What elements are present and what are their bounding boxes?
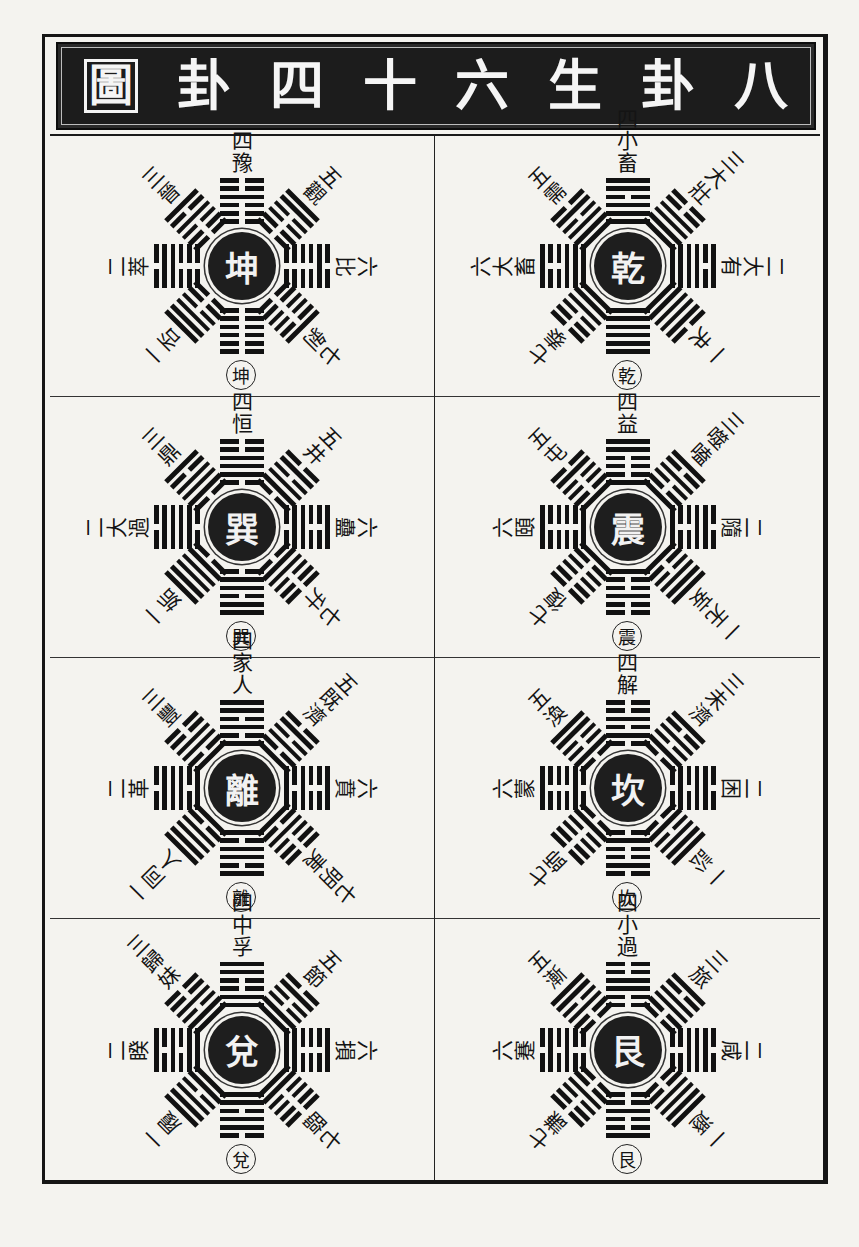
woodblock-page: 八卦生六十四卦圖 四小畜三大壯二大有一夬七泰六大畜五需乾乾四豫五觀六比七剝一否二… [42,34,828,1184]
hexagram-lines [670,1028,716,1072]
hexagram-label: 二大有 [720,252,786,280]
hexagram-number: 四 [617,652,638,674]
yang-line [171,244,176,288]
yang-line [606,838,650,843]
yang-line [220,472,264,477]
hexagram-name-char: 蒙 [514,778,536,799]
hexagram-name-char: 益 [617,413,638,435]
palace-origin-seal: 乾 [612,360,642,390]
hexagram-label: 六頤 [492,513,536,541]
yin-line [606,708,650,713]
yin-line [220,325,264,330]
yin-line [154,505,159,549]
hexagram-number: 六 [356,1039,378,1060]
hexagram-lines [606,178,650,224]
yang-line [606,325,650,330]
hexagram-label: 二大過 [84,513,150,541]
yang-line [326,1028,331,1072]
yang-line [220,700,264,705]
yang-line [326,766,331,810]
yang-line [220,855,264,860]
hexagram-label: 一遯 [683,1105,734,1156]
yin-line [220,333,264,338]
yang-line [606,350,650,355]
yin-line [220,978,264,983]
hexagram-name-char: 恒 [232,413,253,435]
yin-line [220,447,264,452]
hexagram-number: 六 [356,778,378,799]
yin-line [606,456,650,461]
yin-line [678,1028,683,1072]
yang-line [220,725,264,730]
hexagram-label: 六蹇 [492,1036,536,1064]
hexagram-number: 二 [764,256,786,277]
title-banner: 八卦生六十四卦圖 [56,42,816,130]
yin-line [220,178,264,183]
hexagram-number: 六 [356,517,378,538]
yin-line [606,602,650,607]
yang-line [162,244,167,288]
yin-line [220,1133,264,1138]
hexagram-label: 四豫 [228,130,256,174]
yin-line [606,1100,650,1105]
hexagram-lines [220,569,264,615]
hexagram-label: 四益 [614,391,642,435]
yin-line [220,733,264,738]
yin-line [711,1028,716,1072]
hexagram-lines [154,505,200,549]
yin-line [686,505,691,549]
hexagram-number: 六 [356,256,378,277]
hexagram-lines [606,830,650,876]
hexagram-name-char: 賁 [334,778,356,799]
hexagram-label: 三歸妹 [120,928,186,994]
yang-line [606,211,650,216]
hexagram-name-char: 咸 [720,1039,742,1060]
yin-line [220,863,264,868]
yang-line [678,244,683,288]
hexagram-name-char: 睽 [128,1039,150,1060]
hexagram-lines [606,1092,650,1138]
yang-line [220,1092,264,1097]
hexagram-label: 四家人 [228,630,256,696]
hexagram-label: 六蠱 [334,513,378,541]
hexagram-lines [540,505,586,549]
hexagram-name-char: 蹇 [514,1039,536,1060]
hexagram-name-char: 大 [492,256,514,277]
hexagram-lines [220,700,264,746]
yin-line [187,766,192,810]
yin-line [548,505,553,549]
yang-line [179,505,184,549]
hexagram-lines [220,962,264,1008]
yin-line [187,244,192,288]
hexagram-label: 三旅 [683,943,734,994]
hexagram-lines [540,1028,586,1072]
hexagram-label: 四解 [614,652,642,696]
hexagram-lines [154,766,200,810]
hexagram-name-char: 比 [334,256,356,277]
yang-line [171,505,176,549]
hexagram-lines [220,439,264,485]
yin-line [606,830,650,835]
title-char: 卦 [177,59,231,113]
hexagram-lines [284,766,330,810]
hexagram-number: 六 [492,517,514,538]
yin-line [548,766,553,810]
hexagram-name-char: 困 [720,778,742,799]
hexagram-lines [284,505,330,549]
yang-line [220,995,264,1000]
yang-line [606,447,650,452]
yin-line [317,766,322,810]
title-char: 四 [270,59,324,113]
hexagram-label: 五觀 [297,160,348,211]
hexagram-label: 一无妄 [683,582,749,648]
hexagram-number: 四 [232,130,253,152]
yang-line [573,244,578,288]
hexagram-name-char: 家 [232,652,253,674]
hexagram-number: 四 [232,892,253,914]
yin-line [220,203,264,208]
palace-trigram-disc: 艮 [594,1016,662,1084]
hexagram-label: 二隨 [720,513,764,541]
yang-line [606,1133,650,1138]
yin-line [556,244,561,288]
yin-line [606,725,650,730]
